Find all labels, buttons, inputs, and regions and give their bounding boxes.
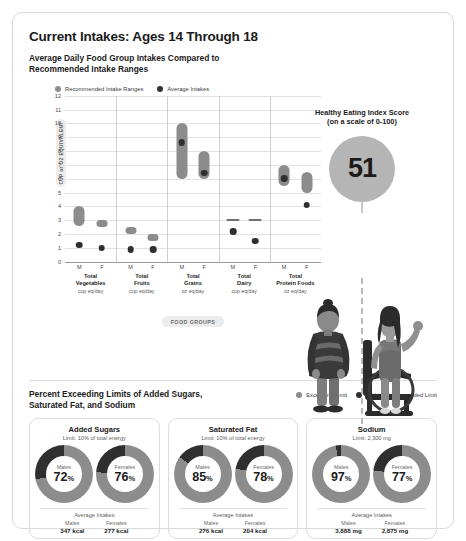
grid-line: 9 bbox=[65, 137, 321, 138]
range-marker bbox=[249, 219, 262, 221]
chart-subtitle: Average Daily Food Group Intakes Compare… bbox=[29, 53, 437, 76]
y-axis-tick: 0 bbox=[58, 259, 61, 265]
average-intake-dot bbox=[252, 238, 259, 245]
donut-percent-value: 85% bbox=[192, 471, 213, 484]
sex-labels: MF bbox=[219, 264, 270, 273]
average-intake-item: Females204 kcal bbox=[243, 520, 267, 534]
average-intakes-row: Males3,888 mgFemales2,875 mg bbox=[311, 520, 432, 534]
x-axis-group: MFTotalFruitscup eq/day bbox=[116, 264, 167, 294]
wheelchair-person-icon bbox=[363, 306, 423, 416]
legend-dot-icon-average bbox=[157, 86, 163, 92]
chart-plot: 0123456789101112 bbox=[65, 96, 321, 262]
legend-item-average-intakes: Average Intakes bbox=[157, 86, 209, 92]
average-intake-value: 204 kcal bbox=[243, 527, 267, 534]
donut-chart: Males85% bbox=[174, 445, 232, 503]
group-name-line1: Total bbox=[65, 273, 116, 280]
sex-labels: MF bbox=[167, 264, 218, 273]
average-intake-sex: Males bbox=[60, 520, 84, 526]
top-section: Recommended Intake Ranges Average Intake… bbox=[29, 86, 437, 376]
group-separator bbox=[116, 96, 117, 262]
legend-label-average: Average Intakes bbox=[167, 86, 209, 92]
nutrient-card-title: Saturated Fat bbox=[173, 425, 294, 434]
chart-subtitle-line1: Average Daily Food Group Intakes Compare… bbox=[29, 53, 437, 64]
nutrient-cards: Added SugarsLimit: 10% of total energyMa… bbox=[29, 418, 437, 539]
group-name-line1: Total bbox=[219, 273, 270, 280]
hei-score-value: 51 bbox=[348, 153, 376, 184]
donut-chart: Females76% bbox=[96, 445, 154, 503]
average-intakes-row: Males276 kcalFemales204 kcal bbox=[173, 520, 294, 534]
average-intake-value: 276 kcal bbox=[199, 527, 223, 534]
percent-symbol: % bbox=[406, 474, 413, 483]
average-intake-item: Males347 kcal bbox=[60, 520, 84, 534]
range-bar bbox=[96, 220, 107, 227]
card-divider bbox=[40, 508, 149, 509]
grid-line: 2 bbox=[65, 234, 321, 235]
average-intake-dot bbox=[230, 228, 237, 235]
sex-label: F bbox=[305, 264, 308, 270]
nutrient-card-limit: Limit: 10% of total energy bbox=[34, 435, 155, 441]
legend-item-recommended-range: Recommended Intake Ranges bbox=[55, 86, 143, 92]
group-separator bbox=[219, 96, 220, 262]
percent-symbol: % bbox=[67, 474, 74, 483]
range-bar bbox=[74, 206, 85, 225]
donut-percent-value: 72% bbox=[54, 471, 75, 484]
average-intake-item: Males3,888 mg bbox=[335, 520, 361, 534]
percent-symbol: % bbox=[345, 474, 352, 483]
y-axis-tick: 11 bbox=[55, 107, 61, 113]
card-divider bbox=[317, 508, 426, 509]
card-divider bbox=[179, 508, 288, 509]
average-intake-value: 347 kcal bbox=[60, 527, 84, 534]
donut-center: Males85% bbox=[185, 456, 221, 492]
y-axis-tick: 6 bbox=[58, 176, 61, 182]
range-bar bbox=[125, 227, 136, 234]
bottom-title-line1: Percent Exceeding Limits of Added Sugars… bbox=[29, 389, 202, 400]
group-unit: cup eq/day bbox=[219, 288, 270, 294]
nutrient-card-limit: Limit: 2,300 mg bbox=[311, 435, 432, 441]
average-intake-dot bbox=[99, 245, 106, 252]
y-axis-tick: 9 bbox=[58, 134, 61, 140]
average-intakes-label: Average Intakes bbox=[311, 512, 432, 518]
percent-symbol: % bbox=[128, 474, 135, 483]
average-intake-dot bbox=[281, 175, 288, 182]
nutrient-card: Added SugarsLimit: 10% of total energyMa… bbox=[29, 418, 160, 539]
sex-label: F bbox=[203, 264, 206, 270]
standing-person-icon bbox=[308, 299, 350, 412]
donut-center: Males72% bbox=[46, 456, 82, 492]
sex-label: M bbox=[179, 264, 184, 270]
average-intake-dot bbox=[178, 139, 185, 146]
average-intakes-row: Males347 kcalFemales277 kcal bbox=[34, 520, 155, 534]
percent-symbol: % bbox=[267, 474, 274, 483]
sex-label: M bbox=[77, 264, 82, 270]
average-intake-dot bbox=[150, 246, 157, 253]
infographic-canvas: Current Intakes: Ages 14 Through 18 Aver… bbox=[0, 0, 466, 541]
hei-title: Healthy Eating Index Score (on a scale o… bbox=[289, 108, 435, 127]
range-bar bbox=[148, 234, 159, 241]
legend-dot-icon-range bbox=[55, 86, 61, 92]
group-name-line2: Dairy bbox=[219, 280, 270, 287]
group-name: TotalDairy bbox=[219, 273, 270, 287]
hei-title-line1: Healthy Eating Index Score bbox=[289, 108, 435, 117]
donut-center: Females78% bbox=[246, 456, 282, 492]
donut-group: Males85%Females78% bbox=[173, 445, 294, 503]
group-name-line2: Vegetables bbox=[65, 280, 116, 287]
chart-legend: Recommended Intake Ranges Average Intake… bbox=[55, 86, 437, 92]
group-name: TotalVegetables bbox=[65, 273, 116, 287]
group-unit: oz eq/day bbox=[167, 288, 218, 294]
group-name: TotalGrains bbox=[167, 273, 218, 287]
average-intake-sex: Females bbox=[382, 520, 408, 526]
donut-center: Males97% bbox=[323, 456, 359, 492]
sex-labels: MF bbox=[116, 264, 167, 273]
donut-chart: Males97% bbox=[312, 445, 370, 503]
y-axis-tick: 5 bbox=[58, 190, 61, 196]
grid-line: 8 bbox=[65, 151, 321, 152]
sex-label: F bbox=[254, 264, 257, 270]
group-name-line1: Total bbox=[116, 273, 167, 280]
grid-line: 10 bbox=[65, 123, 321, 124]
percent-symbol: % bbox=[206, 474, 213, 483]
food-groups-pill: FOOD GROUPS bbox=[162, 316, 225, 327]
y-axis-tick: 8 bbox=[58, 148, 61, 154]
group-name: TotalFruits bbox=[116, 273, 167, 287]
average-intake-item: Females277 kcal bbox=[104, 520, 128, 534]
y-axis-tick: 1 bbox=[58, 245, 61, 251]
bottom-title: Percent Exceeding Limits of Added Sugars… bbox=[29, 389, 202, 412]
